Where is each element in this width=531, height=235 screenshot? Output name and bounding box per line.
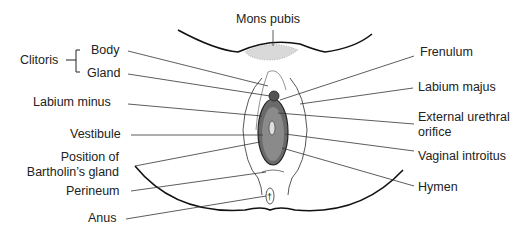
label-urethral-line1: External urethral [418,110,510,124]
label-mons-pubis: Mons pubis [236,12,300,26]
label-urethral-line2: orifice [418,125,451,139]
label-vaginal-introitus: Vaginal introitus [418,149,506,163]
label-clitoris-body: Body [91,43,120,57]
label-perineum: Perineum [66,184,120,198]
label-frenulum: Frenulum [420,45,473,59]
label-anus: Anus [88,211,117,225]
svg-text:†: † [267,192,272,202]
label-bartholin-line2: Bartholin’s gland [14,165,119,179]
label-vestibule: Vestibule [70,127,121,141]
label-bartholin-line1: Position of [14,150,119,164]
label-clitoris: Clitoris [20,53,58,67]
label-labium-minus: Labium minus [33,95,111,109]
label-clitoris-gland: Gland [87,66,120,80]
label-labium-majus: Labium majus [418,80,496,94]
label-hymen: Hymen [418,180,458,194]
